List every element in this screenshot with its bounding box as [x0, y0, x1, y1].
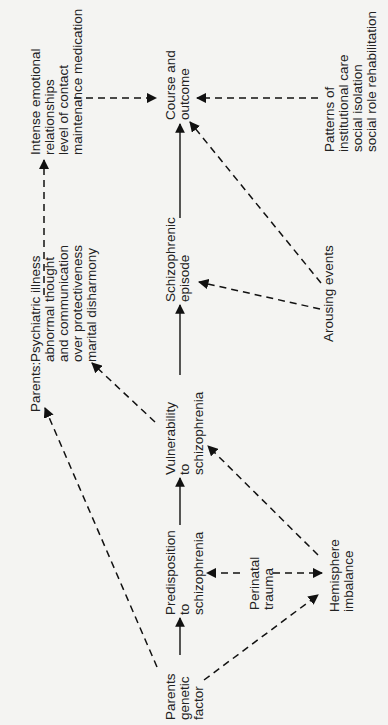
node-schizophrenic-episode: Schizophrenic episode	[163, 217, 192, 302]
node-line: abnormal thought	[42, 257, 57, 362]
node-arousing-events: Arousing events	[321, 245, 336, 342]
arrow-arousing-to-course	[190, 122, 321, 283]
node-line: over protectiveness	[70, 245, 85, 362]
node-perinatal-trauma: Perinatal trauma	[247, 557, 276, 610]
node-line: Vulnerability	[163, 402, 178, 475]
node-line: to	[177, 464, 192, 475]
node-line: Course and	[163, 50, 178, 120]
node-line: Intense emotional	[28, 48, 43, 155]
node-line: imbalance	[341, 550, 356, 612]
node-line: Predisposition	[163, 530, 178, 615]
arrow-hemisphere-to-vulnerability	[208, 446, 318, 555]
parents-label: Parents:	[28, 362, 43, 412]
node-line: social isolation	[350, 64, 365, 152]
node-vulnerability: Vulnerability to schizophrenia	[163, 391, 206, 475]
node-line: episode	[177, 255, 192, 302]
arrow-vulnerability-to-parents-env	[92, 363, 155, 422]
node-line: schizophrenia	[191, 391, 206, 475]
node-hemisphere-imbalance: Hemisphere imbalance	[327, 539, 356, 612]
node-line: and communication	[56, 245, 71, 362]
node-line: genetic	[177, 676, 192, 720]
node-line: Psychiatric illness	[28, 255, 43, 362]
node-patterns-institutional-care: Patterns of institutional care social is…	[322, 11, 379, 152]
node-line: relationships	[42, 79, 57, 155]
node-line: Parents	[163, 673, 178, 720]
schizophrenia-model-diagram: Parents genetic factor Predisposition to…	[0, 0, 388, 725]
node-line: Patterns of	[322, 86, 337, 152]
node-line: factor	[191, 686, 206, 720]
node-line: Hemisphere	[327, 539, 342, 612]
node-line: marital disharmony	[84, 248, 99, 362]
node-line: schizophrenia	[191, 531, 206, 615]
node-parents-label: Parents:	[28, 362, 43, 412]
node-line: Schizophrenic	[163, 217, 178, 302]
node-predisposition: Predisposition to schizophrenia	[163, 530, 206, 615]
arrow-arousing-to-episode	[199, 282, 320, 309]
node-emotional-relationships: Intense emotional relationships level of…	[28, 9, 85, 155]
node-line: social role rehabilitation	[364, 11, 379, 152]
node-course-and-outcome: Course and outcome	[163, 50, 192, 120]
node-line: trauma	[261, 567, 276, 610]
node-line: to	[177, 604, 192, 615]
node-parents-environment: Psychiatric illness abnormal thought and…	[28, 245, 99, 362]
node-parents-genetic-factor: Parents genetic factor	[163, 673, 206, 720]
node-line: outcome	[177, 68, 192, 120]
node-line: level of contact	[56, 65, 71, 155]
node-line: Perinatal	[247, 557, 262, 610]
arrow-genetic-to-parents-env	[45, 408, 157, 667]
node-line: maintenance medication	[70, 9, 85, 155]
node-line: Arousing events	[321, 245, 336, 342]
node-line: institutional care	[336, 54, 351, 152]
